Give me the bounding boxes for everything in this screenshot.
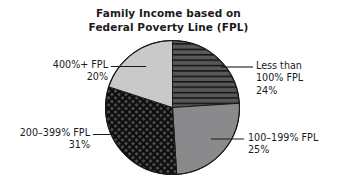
slice-label-100-199-category: 100–199% FPL bbox=[248, 132, 318, 144]
pie-slice-less-than-100 bbox=[173, 41, 240, 108]
slice-label-400-plus: 400%+ FPL 20% bbox=[53, 59, 108, 84]
slice-label-200-399-value: 31% bbox=[20, 139, 90, 151]
pie-slices-group bbox=[106, 41, 240, 175]
slice-label-200-399: 200–399% FPL 31% bbox=[20, 127, 90, 152]
pie-chart-figure: Family Income based on Federal Poverty L… bbox=[0, 0, 337, 193]
slice-label-400-plus-category: 400%+ FPL bbox=[53, 59, 108, 71]
slice-label-400-plus-value: 20% bbox=[53, 71, 108, 83]
slice-label-200-399-category: 200–399% FPL bbox=[20, 127, 90, 139]
slice-label-less-than-100-category-line-1: Less than bbox=[256, 60, 303, 72]
slice-label-less-than-100: Less than 100% FPL 24% bbox=[256, 60, 303, 97]
slice-label-100-199-value: 25% bbox=[248, 144, 318, 156]
slice-label-less-than-100-category-line-2: 100% FPL bbox=[256, 72, 303, 84]
slice-label-less-than-100-value: 24% bbox=[256, 85, 303, 97]
slice-label-100-199: 100–199% FPL 25% bbox=[248, 132, 318, 157]
